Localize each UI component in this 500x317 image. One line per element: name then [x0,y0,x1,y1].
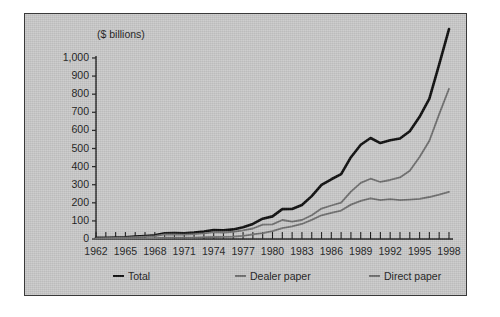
legend-label-direct: Direct paper [384,270,441,282]
legend-item-dealer: Dealer paper [235,270,311,282]
legend-item-total: Total [113,270,150,282]
y-tick-label: 1,000 [43,51,89,63]
legend-swatch-dealer-icon [235,275,246,277]
legend-label-total: Total [128,270,150,282]
chart-figure: ($ billions) 010020030040050060070080090… [24,13,467,296]
y-tick-label: 800 [43,87,89,99]
y-axis-unit-label: ($ billions) [97,28,145,40]
y-tick-label: 100 [43,214,89,226]
y-tick-label: 700 [43,105,89,117]
axes-group [92,56,453,239]
y-tick-label: 500 [43,142,89,154]
y-tick-label: 600 [43,123,89,135]
y-tick-label: 400 [43,160,89,172]
y-tick-label: 300 [43,178,89,190]
legend-swatch-total-icon [113,275,124,278]
y-tick-label: 0 [43,232,89,244]
legend-item-direct: Direct paper [369,270,441,282]
y-tick-label: 200 [43,196,89,208]
x-tick-label: 1998 [429,245,469,257]
series-group [96,29,449,239]
y-tick-label: 900 [43,69,89,81]
legend-swatch-direct-icon [369,275,380,277]
legend-label-dealer: Dealer paper [250,270,311,282]
